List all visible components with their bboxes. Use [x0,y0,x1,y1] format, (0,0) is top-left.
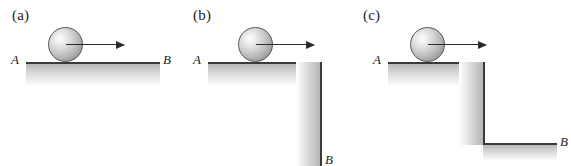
panel-c-step-wall-shading [459,62,483,145]
panel-a-point-a-label: A [11,53,19,66]
panel-b-point-a-label: A [193,53,201,66]
panel-c-arrow-head-icon [478,41,487,49]
panel-b-vertical-wall [320,62,322,166]
panel-b-arrow-head-icon [306,41,315,49]
panel-b-label: (b) [193,8,211,23]
panel-c-point-a-label: A [373,53,381,66]
panel-b: (b) A B [190,0,362,166]
panel-b-wall-shading [296,62,320,166]
panel-c-velocity-arrow [428,44,486,45]
panel-a-surface-shading [26,64,160,86]
panel-b-velocity-arrow [256,44,314,45]
panel-c-lower-surface [483,143,557,145]
panel-c-point-b-label: B [560,135,568,148]
panel-a-label: (a) [12,8,29,23]
panel-a-horizontal-surface [26,62,160,64]
panel-a-point-b-label: B [163,53,171,66]
panel-a-velocity-arrow [66,44,124,45]
panel-c-step-wall [483,62,485,145]
panel-c-label: (c) [363,8,380,23]
panel-a: (a) A B [0,0,190,166]
panel-b-point-b-label: B [325,153,333,166]
physics-figure: (a) A B (b) A B (c) A B [0,0,571,166]
panel-a-arrow-head-icon [116,41,125,49]
panel-c: (c) A B [362,0,571,166]
panel-c-lower-surface-shading [483,145,557,161]
